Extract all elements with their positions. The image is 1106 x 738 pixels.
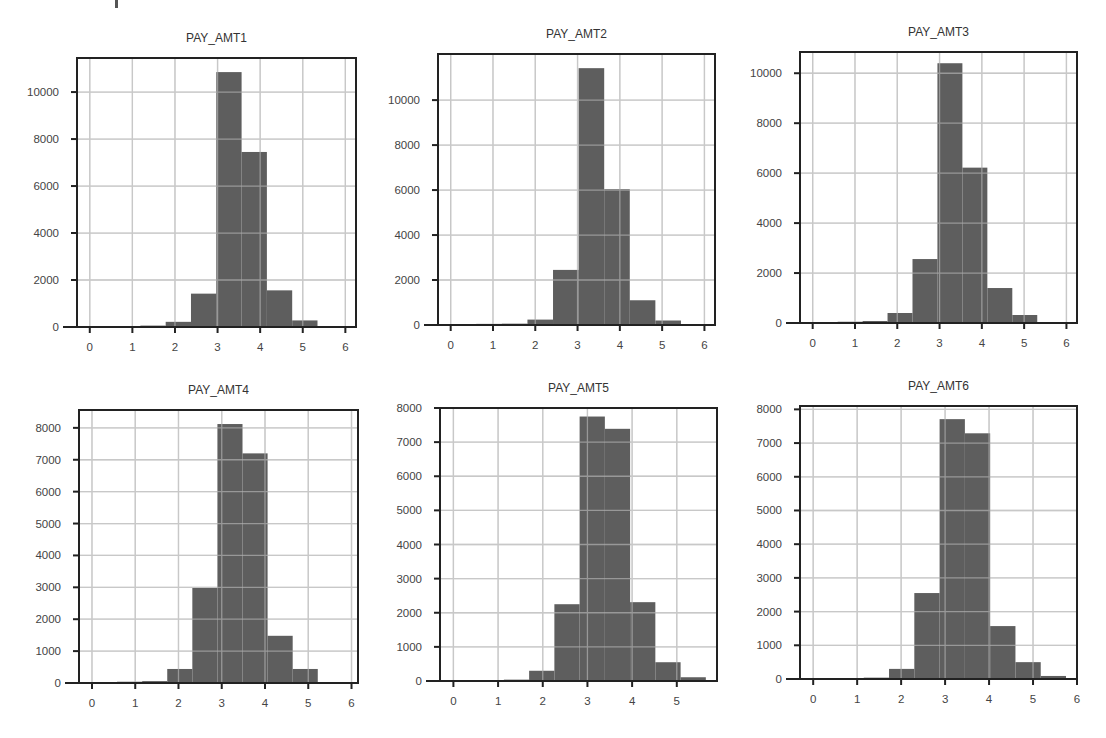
- y-tick-label: 3000: [35, 581, 61, 593]
- y-tick-label: 2000: [756, 267, 782, 279]
- histogram-plot: 012345010002000300040005000600070008000P…: [380, 348, 777, 738]
- y-tick-label: 4000: [33, 227, 59, 239]
- histogram-plot: 01234560200040006000800010000PAY_AMT1: [17, 0, 416, 387]
- x-tick-label: 2: [175, 697, 181, 709]
- histogram-bars: [813, 419, 1066, 679]
- subplot-title: PAY_AMT5: [548, 381, 609, 395]
- x-tick-label: 1: [132, 697, 138, 709]
- x-tick-label: 5: [674, 695, 680, 707]
- y-tick-label: 4000: [756, 217, 782, 229]
- subplot-title: PAY_AMT6: [908, 379, 969, 393]
- x-tick-label: 6: [1074, 693, 1080, 705]
- y-tick-label: 7000: [35, 454, 61, 466]
- y-tick-label: 2000: [756, 606, 782, 618]
- subplot-pay-amt6: PAY_AMT6 0123456010002000300040005000600…: [740, 346, 1106, 738]
- y-tick-label: 8000: [394, 139, 420, 151]
- histogram-plot: 01234560200040006000800010000PAY_AMT3: [740, 0, 1106, 383]
- x-tick-label: 0: [89, 697, 95, 709]
- subplot-pay-amt4: PAY_AMT4 0123456010002000300040005000600…: [19, 350, 418, 738]
- y-tick-label: 1000: [35, 645, 61, 657]
- x-tick-label: 2: [540, 695, 546, 707]
- histogram-bar: [965, 433, 990, 679]
- x-tick-label: 5: [305, 697, 311, 709]
- histogram-plot: 0123456010002000300040005000600070008000…: [740, 346, 1106, 738]
- y-tick-label: 0: [55, 677, 61, 689]
- x-tick-label: 0: [810, 693, 816, 705]
- y-tick-label: 4000: [396, 539, 422, 551]
- y-tick-label: 6000: [394, 184, 420, 196]
- y-axis: 010002000300040005000600070008000: [35, 422, 79, 689]
- y-tick-label: 3000: [396, 573, 422, 585]
- y-tick-label: 2000: [394, 274, 420, 286]
- histogram-bar: [529, 671, 554, 681]
- y-tick-label: 0: [53, 321, 59, 333]
- histogram-plot: 01234560200040006000800010000PAY_AMT2: [378, 0, 775, 385]
- subplot-title: PAY_AMT1: [186, 31, 247, 45]
- y-tick-label: 6000: [35, 486, 61, 498]
- subplot-title: PAY_AMT3: [908, 25, 969, 39]
- y-tick-label: 8000: [33, 133, 59, 145]
- histogram-bar: [553, 270, 579, 325]
- histogram-bar: [554, 604, 579, 681]
- histogram-bar: [243, 453, 268, 683]
- y-tick-label: 4000: [756, 538, 782, 550]
- histogram-bars: [451, 68, 707, 325]
- y-tick-label: 8000: [396, 402, 422, 414]
- y-tick-label: 10000: [27, 86, 59, 98]
- histogram-bar: [630, 602, 655, 681]
- y-tick-label: 2000: [396, 607, 422, 619]
- histogram-bars: [92, 424, 343, 683]
- y-tick-label: 6000: [756, 167, 782, 179]
- histogram-bar: [167, 669, 192, 683]
- y-tick-label: 7000: [396, 436, 422, 448]
- histogram-bar: [242, 152, 267, 327]
- x-tick-label: 4: [262, 697, 269, 709]
- y-tick-label: 1000: [756, 639, 782, 651]
- y-tick-label: 0: [416, 675, 422, 687]
- histogram-bar: [604, 189, 630, 325]
- x-tick-label: 3: [219, 697, 225, 709]
- histogram-bar: [888, 313, 913, 323]
- histogram-bar: [937, 63, 962, 323]
- histogram-bar: [216, 72, 241, 327]
- histogram-bar: [630, 300, 656, 325]
- histogram-bar: [912, 259, 937, 323]
- x-tick-label: 1: [495, 695, 501, 707]
- histogram-bar: [580, 417, 605, 681]
- y-tick-label: 5000: [756, 504, 782, 516]
- histogram-bar: [267, 290, 292, 327]
- histogram-bars: [90, 72, 343, 327]
- x-tick-label: 5: [1030, 693, 1036, 705]
- histogram-bar: [268, 636, 293, 683]
- histogram-bar: [605, 429, 630, 681]
- x-tick-label: 3: [584, 695, 590, 707]
- histogram-bar: [914, 593, 939, 679]
- y-axis: 0200040006000800010000: [27, 86, 77, 333]
- histogram-plot: 0123456010002000300040005000600070008000…: [19, 350, 418, 738]
- y-axis: 0200040006000800010000: [388, 94, 438, 331]
- y-tick-label: 1000: [396, 641, 422, 653]
- subplot-pay-amt2: PAY_AMT2 01234560200040006000800010000PA…: [378, 0, 775, 385]
- y-tick-label: 0: [414, 319, 420, 331]
- y-tick-label: 0: [776, 673, 782, 685]
- x-tick-label: 3: [942, 693, 948, 705]
- histogram-bar: [987, 288, 1012, 323]
- y-tick-label: 10000: [750, 67, 782, 79]
- histogram-bar: [962, 168, 987, 323]
- x-tick-label: 4: [629, 695, 636, 707]
- y-tick-label: 7000: [756, 437, 782, 449]
- y-tick-label: 5000: [35, 518, 61, 530]
- y-axis: 0200040006000800010000: [750, 67, 800, 329]
- y-tick-label: 2000: [33, 274, 59, 286]
- y-tick-label: 8000: [756, 403, 782, 415]
- x-tick-label: 6: [348, 697, 354, 709]
- x-tick-label: 2: [898, 693, 904, 705]
- histogram-bar: [579, 68, 605, 325]
- y-tick-label: 6000: [33, 180, 59, 192]
- histogram-bar: [990, 626, 1015, 679]
- y-axis: 010002000300040005000600070008000: [396, 402, 440, 687]
- histogram-bar: [192, 588, 217, 683]
- subplot-pay-amt3: PAY_AMT3 01234560200040006000800010000PA…: [740, 0, 1106, 383]
- x-tick-label: 1: [854, 693, 860, 705]
- histogram-bar: [1015, 662, 1040, 679]
